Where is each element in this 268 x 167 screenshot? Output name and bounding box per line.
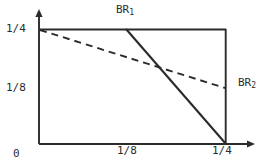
x-tick-label-eighth: 1/8 [117,145,137,156]
br1-curve-label: BR1 [116,4,134,18]
best-response-diagram: 1/4 1/8 0 1/8 1/4 BR1 BR2 [0,0,268,167]
br2-label-base: BR [238,76,251,89]
br2-label-subscript: 2 [251,81,256,90]
y-tick-label-quarter: 1/4 [6,23,26,34]
origin-label: 0 [13,148,20,159]
plot-canvas [0,0,268,167]
x-axis-arrow-icon [247,140,255,147]
br2-curve-label: BR2 [238,77,256,91]
br1-label-subscript: 1 [129,8,134,17]
y-tick-label-eighth: 1/8 [6,82,26,93]
br1-curve [126,29,226,144]
br2-curve [40,30,225,88]
x-tick-label-quarter: 1/4 [212,145,232,156]
y-axis-arrow-icon [35,9,42,17]
br1-label-base: BR [116,3,129,16]
